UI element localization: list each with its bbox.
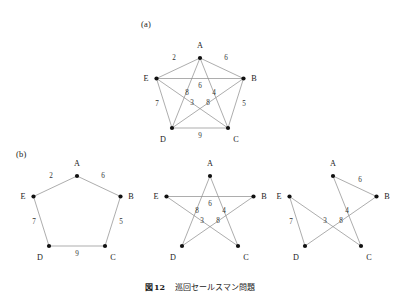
node-label-D: D xyxy=(37,253,43,262)
edge-weight-A-B: 6 xyxy=(358,176,362,184)
edge-A-B xyxy=(77,176,121,197)
edge-A-B xyxy=(200,58,244,79)
edge-A-E xyxy=(157,58,201,79)
node-label-B: B xyxy=(128,192,134,201)
node-E xyxy=(154,76,158,80)
edge-weight-A-B: 6 xyxy=(101,172,105,180)
edge-E-D xyxy=(157,79,173,129)
edge-weight-A-C: 4 xyxy=(212,89,216,97)
node-B xyxy=(251,194,255,198)
node-D xyxy=(180,244,184,248)
edge-B-C xyxy=(105,197,121,247)
graph-panel-b-right: 64837ABCDE xyxy=(276,159,390,262)
node-E xyxy=(287,194,291,198)
edge-weight-D-C: 9 xyxy=(198,132,202,140)
edge-weight-A-E: 2 xyxy=(49,172,53,180)
node-B xyxy=(374,194,378,198)
edge-B-C xyxy=(228,79,244,129)
node-label-A: A xyxy=(207,159,213,168)
node-C xyxy=(359,244,363,248)
edge-weight-E-D: 7 xyxy=(289,218,293,226)
node-D xyxy=(303,244,307,248)
edge-weight-A-B: 6 xyxy=(224,54,228,62)
edge-weight-C-E: 3 xyxy=(190,99,194,107)
edge-weight-D-C: 9 xyxy=(75,250,79,258)
figure-caption: 図12巡回セールスマン問題 xyxy=(0,281,400,292)
graph-panel-b-left: 26759ABCDE xyxy=(20,159,134,262)
node-label-A: A xyxy=(74,159,80,168)
edge-weight-A-C: 4 xyxy=(345,207,349,215)
node-label-C: C xyxy=(233,135,239,144)
edge-weight-B-C: 5 xyxy=(242,100,246,108)
edge-weight-C-E: 3 xyxy=(200,217,204,225)
node-label-C: C xyxy=(366,253,372,262)
node-label-D: D xyxy=(160,135,166,144)
edge-weight-E-D: 7 xyxy=(32,218,36,226)
node-label-C: C xyxy=(110,253,116,262)
node-label-E: E xyxy=(20,192,25,201)
edge-weight-A-C: 4 xyxy=(222,207,226,215)
edge-A-B xyxy=(333,176,377,197)
node-A xyxy=(208,174,212,178)
node-E xyxy=(31,194,35,198)
edge-E-D xyxy=(34,197,50,247)
edge-weight-B-D: 8 xyxy=(206,99,210,107)
graph-panel-b-middle: 48683ABCDE xyxy=(153,159,267,262)
node-A xyxy=(198,56,202,60)
edge-weight-A-D: 8 xyxy=(195,207,199,215)
caption-title: 巡回セールスマン問題 xyxy=(175,283,255,292)
figure-root: (a) (b) 2675948683ABCDE26759ABCDE48683AB… xyxy=(0,0,400,304)
caption-number: 12 xyxy=(154,282,165,292)
node-label-B: B xyxy=(251,74,257,83)
graph-panel-a: 2675948683ABCDE xyxy=(143,41,257,144)
edge-weight-A-E: 2 xyxy=(172,54,176,62)
edge-weight-E-D: 7 xyxy=(155,100,159,108)
node-label-B: B xyxy=(384,192,390,201)
node-C xyxy=(236,244,240,248)
node-label-A: A xyxy=(197,41,203,50)
node-A xyxy=(331,174,335,178)
edge-weight-B-E: 6 xyxy=(198,82,202,90)
graph-diagrams: 2675948683ABCDE26759ABCDE48683ABCDE64837… xyxy=(0,0,400,304)
edge-weight-C-E: 3 xyxy=(323,217,327,225)
node-label-B: B xyxy=(261,192,267,201)
node-A xyxy=(75,174,79,178)
node-C xyxy=(103,244,107,248)
edge-weight-B-C: 5 xyxy=(119,218,123,226)
node-label-E: E xyxy=(143,74,148,83)
node-label-E: E xyxy=(276,192,281,201)
edge-weight-A-D: 8 xyxy=(185,89,189,97)
node-B xyxy=(241,76,245,80)
node-D xyxy=(170,126,174,130)
node-B xyxy=(118,194,122,198)
node-label-A: A xyxy=(330,159,336,168)
edge-weight-B-D: 8 xyxy=(339,217,343,225)
node-label-E: E xyxy=(153,192,158,201)
edge-weight-B-E: 6 xyxy=(208,200,212,208)
node-label-D: D xyxy=(170,253,176,262)
caption-prefix: 図 xyxy=(145,282,153,292)
node-C xyxy=(226,126,230,130)
node-label-D: D xyxy=(293,253,299,262)
node-E xyxy=(164,194,168,198)
node-label-C: C xyxy=(243,253,249,262)
node-D xyxy=(47,244,51,248)
edge-weight-B-D: 8 xyxy=(216,217,220,225)
edge-A-E xyxy=(34,176,78,197)
